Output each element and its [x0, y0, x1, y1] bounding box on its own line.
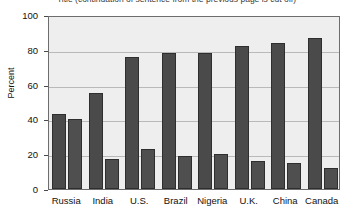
x-tick-label: Canada [292, 195, 352, 206]
bar [105, 159, 119, 189]
bar [324, 168, 338, 189]
bar [178, 156, 192, 189]
y-tick-label: 40 [4, 115, 38, 124]
bar [271, 43, 285, 189]
bar [141, 149, 155, 189]
bar [52, 114, 66, 189]
gridline [49, 87, 339, 88]
bar [162, 53, 176, 189]
y-tick-label: 60 [4, 81, 38, 90]
bar [68, 119, 82, 189]
gridline [49, 52, 339, 53]
y-tick-label: 80 [4, 46, 38, 55]
bar-chart-figure: Title (continuation of sentence from the… [0, 0, 353, 220]
y-tick-label: 20 [4, 150, 38, 159]
y-tick-label: 100 [4, 11, 38, 20]
y-tick-mark [44, 190, 48, 191]
bar [89, 93, 103, 189]
bar [198, 53, 212, 189]
chart-title: Title (continuation of sentence from the… [0, 0, 353, 4]
bar [308, 38, 322, 189]
y-tick-label: 0 [4, 185, 38, 194]
bar [251, 161, 265, 189]
plot-area [48, 16, 340, 190]
bar [214, 154, 228, 189]
bar [287, 163, 301, 189]
bar [235, 46, 249, 189]
bar [125, 57, 139, 189]
